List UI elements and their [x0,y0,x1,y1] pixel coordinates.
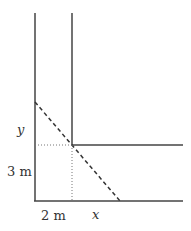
label-2m: 2 m [41,208,66,223]
ladder-dashed-line [35,102,120,201]
label-x: x [92,207,99,222]
label-3m: 3 m [7,164,32,179]
corridor-diagram [0,0,191,231]
label-y: y [17,122,24,137]
